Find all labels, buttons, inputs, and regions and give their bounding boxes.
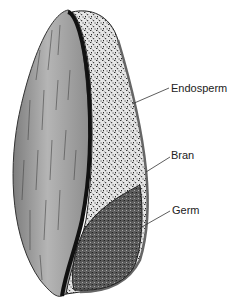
leader-endosperm [132, 88, 169, 104]
wheat-kernel-diagram [0, 0, 236, 304]
leader-bran [146, 157, 170, 172]
label-endosperm: Endosperm [171, 83, 227, 94]
label-bran: Bran [171, 150, 194, 161]
label-germ: Germ [172, 205, 200, 216]
